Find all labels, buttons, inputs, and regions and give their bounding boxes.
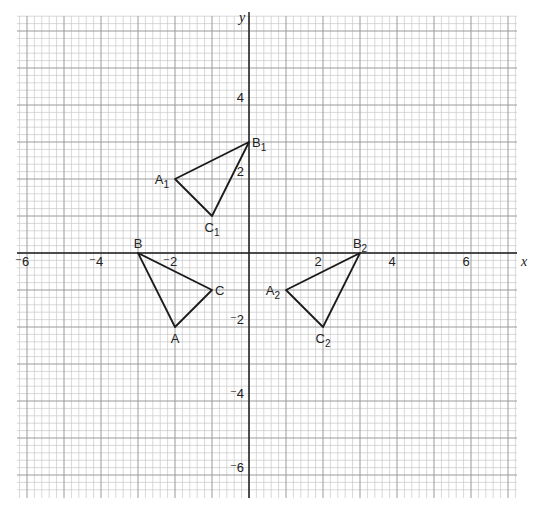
- vertex-label: C: [215, 283, 224, 298]
- x-tick-label: 4: [388, 254, 395, 269]
- vertex-label: A1: [155, 172, 170, 190]
- y-tick-label: 4: [237, 90, 244, 105]
- y-axis-label: y: [237, 10, 246, 25]
- coordinate-grid: xy⁻6⁻4⁻224642⁻2⁻4⁻6 ABCA1B1C1A2B2C2: [0, 0, 538, 514]
- vertex-subscript: 2: [325, 338, 331, 349]
- x-tick-label: 6: [462, 254, 469, 269]
- x-tick-label: ⁻6: [15, 254, 29, 269]
- vertex-subscript: 2: [362, 243, 368, 254]
- vertex-label: A2: [266, 283, 281, 301]
- x-tick-label: 2: [314, 254, 321, 269]
- vertex-subscript: 1: [214, 227, 220, 238]
- x-axis-label: x: [520, 254, 528, 269]
- vertex-label: B: [134, 236, 143, 251]
- vertex-subscript: 1: [163, 179, 169, 190]
- triangles: ABCA1B1C1A2B2C2: [134, 135, 368, 349]
- vertex-label: B1: [252, 135, 267, 153]
- vertex-subscript: 2: [274, 290, 280, 301]
- vertex-subscript: 1: [261, 142, 267, 153]
- x-tick-label: ⁻4: [89, 254, 103, 269]
- y-tick-label: ⁻2: [230, 312, 244, 327]
- y-tick-label: ⁻6: [230, 460, 244, 475]
- vertex-label: A: [171, 331, 180, 346]
- y-tick-label: ⁻4: [230, 386, 244, 401]
